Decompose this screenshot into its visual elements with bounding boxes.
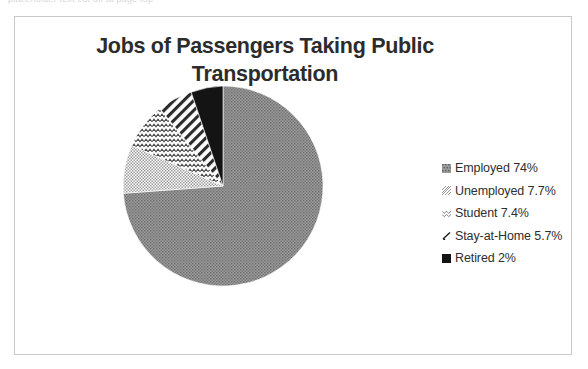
legend-item-retired[interactable]: Retired 2% [442, 247, 570, 270]
legend-label-stay-at-home: Stay-at-Home 5.7% [455, 230, 562, 243]
legend-item-unemployed[interactable]: Unemployed 7.7% [442, 180, 570, 203]
legend-label-unemployed: Unemployed 7.7% [455, 185, 556, 198]
wavy-swatch [442, 209, 451, 218]
diagonal-stripe-swatch [442, 231, 451, 240]
legend-item-student[interactable]: Student 7.4% [442, 202, 570, 225]
chart-legend: Employed 74% Unemployed 7.7% Student 7.4… [442, 157, 570, 270]
chart-frame: Jobs of Passengers Taking Public Transpo… [14, 16, 572, 355]
page-top-cutoff-text: placeholder text cut off at page top [8, 0, 328, 5]
pie-chart [120, 83, 326, 289]
legend-label-student: Student 7.4% [455, 207, 529, 220]
legend-item-stay-at-home[interactable]: Stay-at-Home 5.7% [442, 225, 570, 248]
pie-plot-area [15, 17, 445, 356]
legend-item-employed[interactable]: Employed 74% [442, 157, 570, 180]
legend-label-employed: Employed 74% [455, 162, 538, 175]
screenshot-root: placeholder text cut off at page top Job… [0, 0, 588, 369]
solid-black-swatch [442, 254, 451, 263]
checker-light-swatch [442, 186, 451, 195]
legend-label-retired: Retired 2% [455, 252, 516, 265]
dotted-gray-swatch [442, 164, 451, 173]
